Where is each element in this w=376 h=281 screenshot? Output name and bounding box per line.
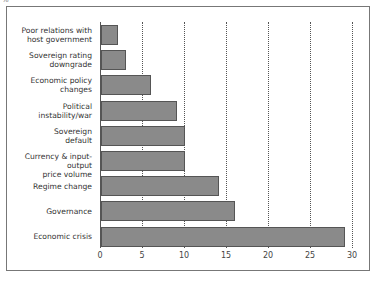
bar [101,227,345,247]
bar [101,201,235,221]
category-label: Currency & input-output price volume [0,152,92,179]
x-tick-label: 15 [221,251,231,260]
gridline [352,22,353,248]
bar [101,176,219,196]
gridline [310,22,311,248]
unit-label: % [2,0,9,4]
x-tick-label: 30 [347,251,357,260]
gridline [268,22,269,248]
x-tick-label: 25 [305,251,315,260]
category-label: Sovereign default [0,127,92,145]
x-tick-label: 0 [97,251,102,260]
plot-area [100,22,360,248]
category-label: Political instability/war [0,102,92,120]
bar [101,75,151,95]
bar [101,151,185,171]
category-label: Economic policy changes [0,76,92,94]
category-label: Economic crisis [0,232,92,241]
category-label: Poor relations with host government [0,26,92,44]
x-tick-label: 5 [139,251,144,260]
category-label: Regime change [0,182,92,191]
bar [101,50,126,70]
bar [101,101,177,121]
bar [101,126,185,146]
bar [101,25,118,45]
category-label: Governance [0,207,92,216]
x-tick-label: 10 [179,251,189,260]
x-tick-label: 20 [263,251,273,260]
category-label: Sovereign rating downgrade [0,51,92,69]
